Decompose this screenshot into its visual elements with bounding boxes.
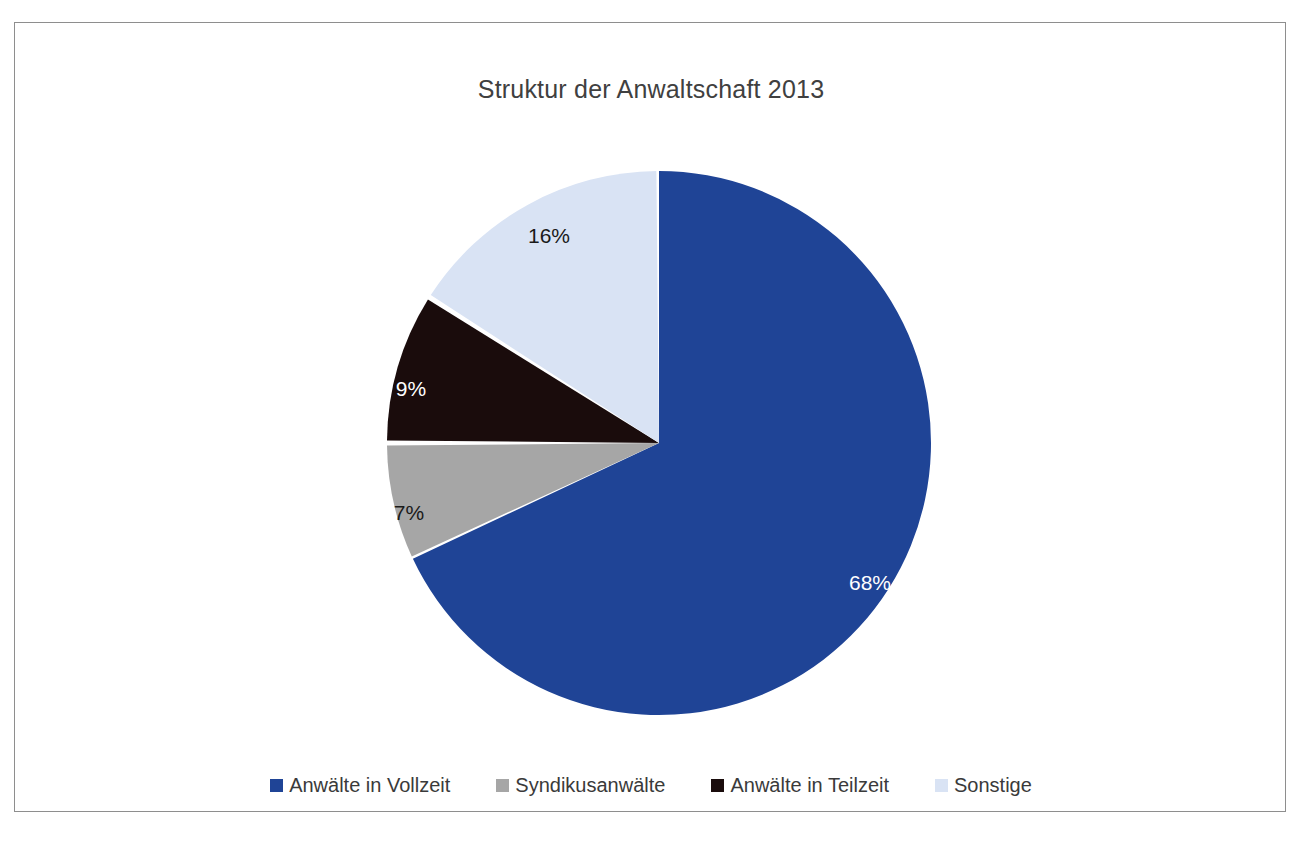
chart-legend: Anwälte in VollzeitSyndikusanwälteAnwält… bbox=[15, 775, 1287, 795]
legend-item-label: Syndikusanwälte bbox=[515, 775, 665, 795]
legend-swatch-icon bbox=[711, 779, 724, 792]
pie-svg bbox=[15, 23, 1287, 813]
legend-item-label: Anwälte in Teilzeit bbox=[730, 775, 889, 795]
legend-item-label: Sonstige bbox=[954, 775, 1032, 795]
pie-slice-label: 9% bbox=[396, 377, 426, 401]
chart-page: Struktur der Anwaltschaft 2013 68%7%9%16… bbox=[0, 0, 1313, 847]
chart-frame: Struktur der Anwaltschaft 2013 68%7%9%16… bbox=[14, 22, 1286, 812]
legend-swatch-icon bbox=[496, 779, 509, 792]
legend-item-label: Anwälte in Vollzeit bbox=[289, 775, 450, 795]
pie-slice-label: 68% bbox=[849, 571, 891, 595]
legend-swatch-icon bbox=[935, 779, 948, 792]
pie-slice-label: 16% bbox=[528, 224, 570, 248]
pie-slice-label: 7% bbox=[394, 501, 424, 525]
legend-item[interactable]: Anwälte in Vollzeit bbox=[270, 775, 450, 795]
legend-swatch-icon bbox=[270, 779, 283, 792]
legend-item[interactable]: Anwälte in Teilzeit bbox=[711, 775, 889, 795]
pie-slice-group bbox=[387, 171, 931, 715]
legend-item[interactable]: Sonstige bbox=[935, 775, 1032, 795]
legend-item[interactable]: Syndikusanwälte bbox=[496, 775, 665, 795]
pie-chart: 68%7%9%16% bbox=[15, 23, 1287, 813]
